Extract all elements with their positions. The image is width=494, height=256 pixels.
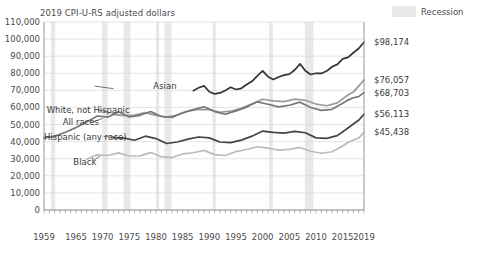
x-tick-label: 1990 xyxy=(199,232,221,242)
y-axis: 010,00020,00030,00040,00050,00060,00070,… xyxy=(0,22,40,210)
x-tick-label: 2010 xyxy=(305,232,327,242)
x-tick-label: 1959 xyxy=(33,232,55,242)
asian-label: Asian xyxy=(153,81,176,91)
black-label: Black xyxy=(73,157,96,167)
legend: Recession xyxy=(392,6,463,17)
recession-swatch xyxy=(392,6,416,17)
x-tick-label: 1965 xyxy=(65,232,87,242)
y-tick-label: 110,000 xyxy=(5,17,40,27)
end-value-labels: $98,174$76,057$68,703$56,113$45,438 xyxy=(368,22,494,210)
x-tick-label: 1975 xyxy=(119,232,141,242)
y-tick-label: 40,000 xyxy=(10,137,40,147)
x-tick-label: 2005 xyxy=(279,232,301,242)
x-tick-label: 1995 xyxy=(225,232,247,242)
recession-band-5 xyxy=(213,22,216,210)
series-line-asian xyxy=(193,42,364,94)
y-tick-label: 30,000 xyxy=(10,154,40,164)
x-tick-label: 1985 xyxy=(172,232,194,242)
y-tick-label: 60,000 xyxy=(10,102,40,112)
y-tick-label: 20,000 xyxy=(10,171,40,181)
legend-label-recession: Recession xyxy=(421,7,463,17)
x-axis: 1959196519701975198019851990199520002005… xyxy=(44,232,374,246)
y-tick-label: 0 xyxy=(35,205,40,215)
income-by-race-line-chart: 2019 CPI-U-RS adjusted dollars Recession… xyxy=(0,0,494,256)
y-tick-label: 70,000 xyxy=(10,85,40,95)
y-tick-label: 90,000 xyxy=(10,51,40,61)
recession-band-0 xyxy=(51,22,55,210)
x-tick-label: 2000 xyxy=(252,232,274,242)
allraces-label: All races xyxy=(63,117,99,127)
white-label: White, not Hispanic xyxy=(47,105,130,115)
end-label-black: $45,438 xyxy=(374,127,409,137)
x-tick-label: 1970 xyxy=(92,232,114,242)
recession-band-6 xyxy=(269,22,273,210)
hispanic-label: Hispanic (any race) xyxy=(44,132,126,142)
plot-area: AsianWhite, not HispanicAll racesHispani… xyxy=(44,22,364,210)
chart-title: 2019 CPI-U-RS adjusted dollars xyxy=(40,8,175,18)
x-tick-label: 2015 xyxy=(332,232,354,242)
x-tick-label: 2019 xyxy=(353,232,375,242)
end-label-asian: $98,174 xyxy=(374,37,409,47)
end-label-hispanic: $56,113 xyxy=(374,109,409,119)
end-label-white: $76,057 xyxy=(374,75,409,85)
y-tick-label: 50,000 xyxy=(10,120,40,130)
series-line-hispanic-any-race xyxy=(113,114,364,143)
y-tick-label: 10,000 xyxy=(10,188,40,198)
y-tick-label: 100,000 xyxy=(5,34,40,44)
x-tick-label: 1980 xyxy=(145,232,167,242)
recession-band-7 xyxy=(305,22,314,210)
end-label-allraces: $68,703 xyxy=(374,88,409,98)
y-tick-label: 80,000 xyxy=(10,68,40,78)
